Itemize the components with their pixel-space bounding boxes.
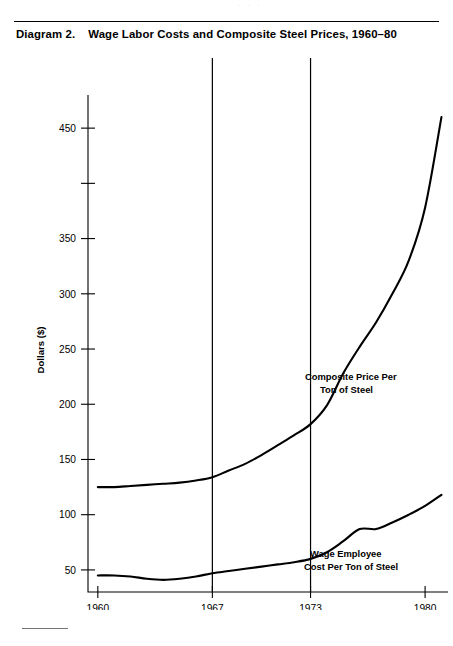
y-axis-tick-label: 250 <box>59 344 76 355</box>
vertical-reference-lines <box>212 58 310 592</box>
y-axis-title: Dollars ($) <box>35 327 46 374</box>
series-annotations: Composite Price PerTon of SteelWage Empl… <box>304 371 398 572</box>
y-axis-tick-label: 100 <box>59 509 76 520</box>
y-axis-tick-label: 350 <box>59 233 76 244</box>
data-series <box>98 117 442 580</box>
chart-container: 50100150200250300350450 1960196719731980… <box>0 50 453 610</box>
y-axis-tick-label: 200 <box>59 399 76 410</box>
series-annotation: Ton of Steel <box>320 384 373 395</box>
page-root: · · · Diagram 2.Wage Labor Costs and Com… <box>0 0 453 646</box>
x-axis-tick-label: 1967 <box>201 603 224 610</box>
series-annotation: Composite Price Per <box>305 371 397 382</box>
y-axis-tick-label: 50 <box>65 565 77 576</box>
x-axis-ticks: 1960196719731980 <box>86 586 436 610</box>
diagram-number: Diagram 2. <box>16 28 75 40</box>
axis-lines <box>88 95 448 592</box>
y-axis-tick-label: 150 <box>59 454 76 465</box>
bleed-through-artifact: · · · <box>130 0 370 14</box>
y-axis-ticks: 50100150200250300350450 <box>59 123 95 576</box>
x-axis-tick-label: 1973 <box>299 603 322 610</box>
series-line <box>98 117 442 487</box>
page-title: Wage Labor Costs and Composite Steel Pri… <box>88 28 397 40</box>
y-axis-tick-label: 450 <box>59 123 76 134</box>
x-axis-tick-label: 1980 <box>414 603 437 610</box>
series-annotation: Wage Employee <box>310 548 382 559</box>
x-axis-tick-label: 1960 <box>86 603 109 610</box>
line-chart: 50100150200250300350450 1960196719731980… <box>0 50 453 610</box>
series-annotation: Cost Per Ton of Steel <box>304 561 398 572</box>
footnote-rule <box>22 628 68 629</box>
diagram-caption: Diagram 2.Wage Labor Costs and Composite… <box>16 28 441 40</box>
y-axis-tick-label: 300 <box>59 289 76 300</box>
header-rule <box>14 21 439 22</box>
